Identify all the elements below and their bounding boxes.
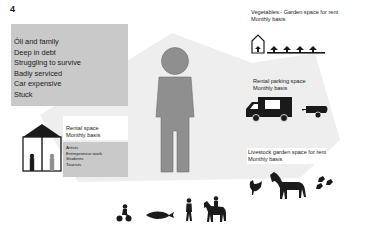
- vegetables-title: Vegetables - Garden space for rent: [251, 9, 338, 16]
- person-figure-icon: [150, 44, 200, 174]
- livestock-title: Livestock garden space for rent: [248, 149, 326, 156]
- greenhouse-plants-icon: [251, 33, 337, 55]
- vegetables-basis: Monthly basis: [251, 16, 338, 23]
- status-line: Struggling to survive: [14, 58, 128, 69]
- rental-basis: Monthly basis: [66, 132, 128, 139]
- parking-basis: Monthly basis: [253, 85, 306, 92]
- status-line: Badly serviced: [14, 69, 128, 80]
- person-walking-icon: [184, 198, 194, 223]
- livestock-basis: Monthly basis: [248, 156, 326, 163]
- camper-trailer-icon: [244, 96, 344, 124]
- vegetables-offer-label: Vegetables - Garden space for rent Month…: [251, 9, 338, 23]
- horse-chickens-birds-icon: [247, 170, 337, 204]
- rental-title: Rental space: [66, 125, 128, 132]
- livestock-offer-label: Livestock garden space for rent Monthly …: [247, 148, 327, 164]
- fish-icon: [145, 210, 175, 220]
- house-people-icon: [22, 122, 62, 172]
- page-number: 4: [10, 4, 15, 14]
- rental-use-item: Tourists: [66, 162, 128, 168]
- rental-offer-label: Rental space Monthly basis: [63, 116, 128, 140]
- status-line: Deep in debt: [14, 48, 128, 59]
- status-box: Óli and family Deep in debt Struggling t…: [11, 24, 128, 106]
- status-line: Óli and family: [14, 37, 128, 48]
- status-line: Car expensive: [14, 79, 128, 90]
- parking-title: Rental parking space: [253, 78, 306, 85]
- horse-rider-icon: [202, 196, 228, 223]
- child-tricycle-icon: [116, 204, 132, 222]
- rental-uses-list: Artists Entrepreneur work Students Touri…: [63, 142, 128, 177]
- parking-offer-label: Rental parking space Monthly basis: [253, 78, 306, 92]
- status-line: Stuck: [14, 90, 128, 101]
